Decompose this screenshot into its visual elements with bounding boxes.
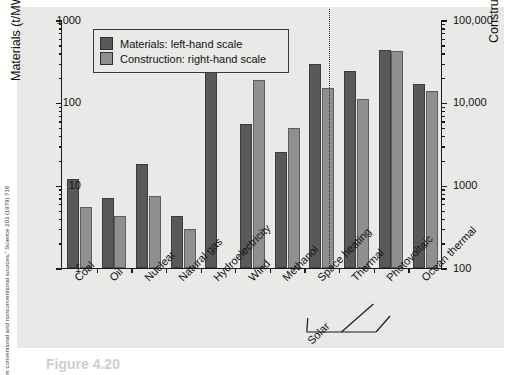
axis-tick-minor bbox=[59, 128, 63, 129]
bar-materials bbox=[102, 198, 114, 268]
axis-tick-minor bbox=[441, 198, 445, 199]
x-axis-tick bbox=[201, 268, 202, 273]
axis-tick-minor bbox=[59, 39, 63, 40]
axis-tick-minor bbox=[59, 194, 63, 195]
bar-materials bbox=[379, 50, 391, 268]
axis-tick-minor bbox=[59, 136, 63, 137]
axis-tick-minor bbox=[59, 198, 63, 199]
axis-tick-minor bbox=[441, 53, 445, 54]
axis-tick-minor bbox=[59, 111, 63, 112]
axis-tick-minor bbox=[441, 211, 445, 212]
axis-tick-minor bbox=[59, 28, 63, 29]
axis-tick-minor bbox=[441, 128, 445, 129]
legend-label-materials: Materials: left-hand scale bbox=[120, 38, 242, 50]
x-axis-tick bbox=[97, 268, 98, 273]
axis-tick-minor bbox=[441, 64, 445, 65]
x-axis-tick bbox=[408, 268, 409, 273]
y-axis-left-tick-label: 10 bbox=[69, 179, 81, 191]
axis-tick-minor bbox=[59, 121, 63, 122]
x-axis-tick bbox=[131, 268, 132, 273]
axis-tick-minor bbox=[441, 107, 445, 108]
solar-group-label: Solar bbox=[305, 320, 332, 347]
axis-tick-minor bbox=[441, 161, 445, 162]
axis-tick-minor bbox=[59, 219, 63, 220]
axis-tick-minor bbox=[441, 219, 445, 220]
axis-tick-minor bbox=[59, 116, 63, 117]
figure-panel: Materials (t/MWye) Construction (person-… bbox=[17, 7, 504, 348]
y-axis-left-title-text: Materials (t/MWy bbox=[9, 0, 23, 81]
x-axis-tick bbox=[166, 268, 167, 273]
axis-tick-major bbox=[56, 268, 62, 269]
axis-tick-minor bbox=[59, 78, 63, 79]
source-credit-text: Based on H. Inhaber, "Risk with energy f… bbox=[4, 186, 10, 375]
axis-tick-minor bbox=[441, 189, 445, 190]
chart-legend: Materials: left-hand scale Construction:… bbox=[93, 29, 289, 73]
legend-swatch-construction bbox=[100, 52, 113, 65]
legend-item: Materials: left-hand scale bbox=[100, 37, 282, 50]
axis-tick-minor bbox=[441, 121, 445, 122]
axis-tick-minor bbox=[441, 78, 445, 79]
y-axis-left-title: Materials (t/MWye) bbox=[9, 0, 24, 81]
axis-tick-minor bbox=[441, 243, 445, 244]
x-axis-tick bbox=[235, 268, 236, 273]
axis-tick-minor bbox=[59, 53, 63, 54]
axis-tick-minor bbox=[59, 211, 63, 212]
axis-tick-minor bbox=[441, 24, 445, 25]
bar-materials bbox=[67, 179, 79, 268]
axis-tick-minor bbox=[441, 39, 445, 40]
axis-tick-minor bbox=[441, 45, 445, 46]
x-axis-tick bbox=[270, 268, 271, 273]
bar-construction bbox=[288, 128, 300, 268]
y-axis-left-tick-label: 100 bbox=[63, 96, 81, 108]
axis-tick-minor bbox=[441, 136, 445, 137]
axis-tick-minor bbox=[59, 229, 63, 230]
figure-caption: Figure 4.20 bbox=[46, 356, 120, 372]
axis-tick-major bbox=[441, 103, 447, 104]
axis-tick-minor bbox=[441, 194, 445, 195]
legend-label-construction: Construction: right-hand scale bbox=[120, 53, 266, 65]
axis-tick-minor bbox=[59, 204, 63, 205]
x-axis-tick bbox=[339, 268, 340, 273]
legend-swatch-materials bbox=[100, 37, 113, 50]
axis-tick-minor bbox=[59, 64, 63, 65]
axis-tick-major bbox=[56, 103, 62, 104]
axis-tick-major bbox=[441, 186, 447, 187]
bar-construction bbox=[114, 216, 126, 268]
axis-tick-minor bbox=[59, 33, 63, 34]
axis-tick-minor bbox=[441, 111, 445, 112]
axis-tick-minor bbox=[59, 243, 63, 244]
axis-tick-minor bbox=[59, 189, 63, 190]
y-axis-right-tick-label: 100 bbox=[453, 262, 471, 274]
y-axis-left-tick-label: 1000 bbox=[57, 14, 81, 26]
bar-construction bbox=[391, 51, 403, 268]
axis-tick-minor bbox=[441, 33, 445, 34]
axis-tick-minor bbox=[59, 161, 63, 162]
bar-materials bbox=[275, 152, 287, 268]
legend-item: Construction: right-hand scale bbox=[100, 52, 282, 65]
axis-tick-minor bbox=[441, 204, 445, 205]
axis-tick-minor bbox=[441, 146, 445, 147]
category-divider bbox=[329, 9, 330, 268]
bar-materials bbox=[136, 164, 148, 268]
y-axis-right-tick-label: 100,000 bbox=[453, 14, 493, 26]
y-axis-right-tick-label: 1000 bbox=[453, 179, 477, 191]
bar-materials bbox=[309, 64, 321, 268]
axis-tick-minor bbox=[59, 107, 63, 108]
x-axis-tick bbox=[304, 268, 305, 273]
x-axis-tick bbox=[374, 268, 375, 273]
axis-tick-minor bbox=[441, 229, 445, 230]
bar-construction bbox=[80, 207, 92, 268]
axis-tick-major bbox=[441, 20, 447, 21]
axis-tick-minor bbox=[59, 45, 63, 46]
axis-tick-major bbox=[56, 186, 62, 187]
axis-tick-minor bbox=[441, 28, 445, 29]
y-axis-right-tick-label: 10,000 bbox=[453, 96, 487, 108]
axis-tick-minor bbox=[441, 116, 445, 117]
axis-tick-minor bbox=[59, 146, 63, 147]
